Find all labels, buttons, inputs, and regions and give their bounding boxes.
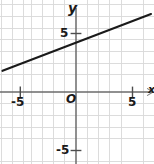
- coordinate-plane-graph: y O x -5 5 5 -5: [0, 0, 154, 164]
- origin-label: O: [66, 93, 76, 105]
- y-tick-label-negative-five: -5: [56, 144, 69, 156]
- x-tick-label-positive-five: 5: [128, 96, 136, 108]
- x-axis-label: x: [148, 84, 154, 95]
- y-tick-label-positive-five: 5: [60, 27, 68, 39]
- y-axis-label: y: [68, 1, 77, 15]
- graph-canvas: [0, 0, 154, 164]
- grid-horizontal-lines: [0, 5, 154, 162]
- x-tick-label-negative-five: -5: [11, 96, 24, 108]
